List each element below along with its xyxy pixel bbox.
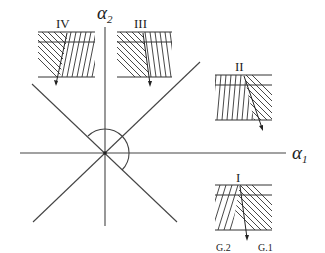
region-i-grain-boundary: I G.2 G.1 — [200, 170, 297, 253]
region-ii-grain-boundary: II — [204, 59, 297, 131]
misorientation-diagram: α2 α1 IV III — [0, 0, 325, 253]
diagonal-line-sw-ne — [33, 62, 200, 222]
region-iii-label: III — [134, 16, 147, 31]
region-iv-grain-boundary: IV — [12, 16, 105, 86]
region-iv-label: IV — [56, 16, 70, 31]
origin-point — [103, 151, 107, 155]
grain-2-label: G.2 — [216, 242, 231, 253]
region-ii-label: II — [235, 59, 244, 74]
alpha2-label: α2 — [97, 2, 113, 25]
region-iii-grain-boundary: III — [90, 16, 183, 87]
grain-1-label: G.1 — [258, 242, 273, 253]
alpha1-label: α1 — [292, 142, 307, 165]
region-i-label: I — [236, 170, 240, 185]
